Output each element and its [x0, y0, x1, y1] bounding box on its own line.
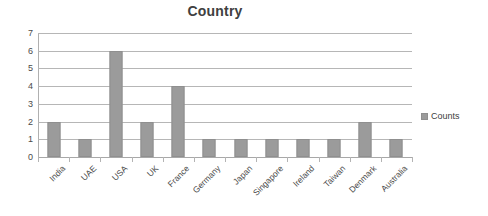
- x-tick-label: Singapore: [251, 164, 285, 198]
- bar[interactable]: [359, 122, 372, 157]
- bar-slot: [132, 33, 163, 157]
- x-tick-label: Germany: [192, 164, 223, 195]
- x-tick-label: India: [48, 164, 67, 183]
- bar-slot: [350, 33, 381, 157]
- y-tick-label-4: 4: [5, 82, 33, 91]
- bar-slot: [38, 33, 69, 157]
- chart-legend: Counts: [421, 111, 460, 121]
- x-tick-label: UAE: [79, 164, 98, 183]
- y-tick-label-3: 3: [5, 100, 33, 109]
- x-tick-label: Denmark: [348, 164, 379, 195]
- bar[interactable]: [172, 86, 185, 157]
- bar-slot: [319, 33, 350, 157]
- bar[interactable]: [265, 139, 278, 157]
- bar[interactable]: [296, 139, 309, 157]
- y-tick-label-2: 2: [5, 118, 33, 127]
- y-tick-label-1: 1: [5, 135, 33, 144]
- bar-slot: [287, 33, 318, 157]
- y-tick-label-0: 0: [5, 153, 33, 162]
- x-tick-label: Australia: [380, 164, 410, 194]
- x-tick: [412, 157, 413, 162]
- bar-slot: [69, 33, 100, 157]
- x-tick-label: Ireland: [292, 164, 317, 189]
- x-tick-label: Taiwan: [322, 164, 347, 189]
- bar[interactable]: [78, 139, 91, 157]
- bar[interactable]: [47, 122, 60, 157]
- bar-slot: [381, 33, 412, 157]
- bar-slot: [100, 33, 131, 157]
- bar-chart: Country 76543210 IndiaUAEUSAUKFranceGerm…: [0, 0, 488, 216]
- y-tick-label-5: 5: [5, 64, 33, 73]
- y-tick-label-6: 6: [5, 47, 33, 56]
- bar-slot: [194, 33, 225, 157]
- bar[interactable]: [203, 139, 216, 157]
- bar[interactable]: [328, 139, 341, 157]
- bar[interactable]: [109, 51, 122, 157]
- x-axis-tick-labels: IndiaUAEUSAUKFranceGermanyJapanSingapore…: [38, 162, 412, 216]
- x-tick-label: USA: [111, 164, 130, 183]
- x-tick-label: UK: [146, 164, 161, 179]
- y-axis-tick-labels: 76543210: [0, 33, 33, 157]
- chart-title: Country: [0, 2, 430, 20]
- y-tick-label-7: 7: [5, 29, 33, 38]
- legend-label-counts: Counts: [431, 111, 460, 121]
- bars-layer: [38, 33, 412, 157]
- x-tick-label: Japan: [231, 164, 254, 187]
- legend-swatch-counts: [421, 113, 428, 120]
- bar-slot: [256, 33, 287, 157]
- bar[interactable]: [141, 122, 154, 157]
- bar[interactable]: [234, 139, 247, 157]
- bar-slot: [225, 33, 256, 157]
- x-tick-label: France: [167, 164, 192, 189]
- bar[interactable]: [390, 139, 403, 157]
- bar-slot: [163, 33, 194, 157]
